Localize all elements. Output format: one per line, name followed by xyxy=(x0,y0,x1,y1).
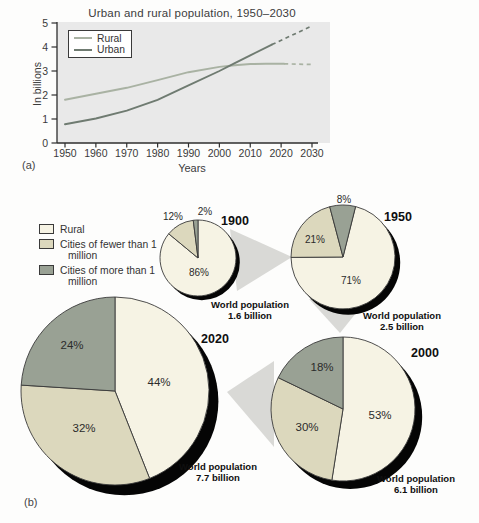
caption-line-2: 7.7 billion xyxy=(179,473,257,484)
caption-line-2: 2.5 billion xyxy=(363,322,441,333)
pie-slice-label-rural-2020: 44% xyxy=(147,376,170,388)
legend-item-cities-more: Cities of more than 1 million xyxy=(39,265,179,288)
pie-slice-label-fewer-1900: 12% xyxy=(163,211,183,222)
pie-slice-label-fewer-2000: 30% xyxy=(295,421,318,433)
legend-label-cities-fewer: Cities of fewer than 1 million xyxy=(60,239,179,262)
world-population-caption-2000: World population 6.1 billion xyxy=(377,474,455,495)
legend-swatch-cities-fewer xyxy=(39,239,54,249)
caption-line-1: World population xyxy=(363,311,441,322)
pie-slice-label-more-1900: 2% xyxy=(198,206,212,217)
caption-line-1: World population xyxy=(179,462,257,473)
pie-legend: Rural Cities of fewer than 1 million Cit… xyxy=(39,224,179,291)
legend-item-rural: Rural xyxy=(39,224,179,236)
pie-slice-label-rural-1950: 71% xyxy=(341,275,361,286)
pie-year-1950: 1950 xyxy=(384,210,412,224)
pie-year-2000: 2000 xyxy=(411,346,439,360)
pie-slice-label-rural-1900: 86% xyxy=(189,267,209,278)
figure: Urban and rural population, 1950–2030 01… xyxy=(0,0,479,523)
legend-swatch-cities-more xyxy=(39,265,54,275)
caption-line-1: World population xyxy=(211,300,289,311)
world-population-caption-1900: World population 1.6 billion xyxy=(211,300,289,321)
world-population-caption-2020: World population 7.7 billion xyxy=(179,462,257,483)
pie-slice-label-fewer-1950: 21% xyxy=(305,234,325,245)
legend-swatch-rural xyxy=(39,224,54,234)
caption-line-1: World population xyxy=(377,474,455,485)
legend-label-cities-more: Cities of more than 1 million xyxy=(60,265,179,288)
caption-line-2: 6.1 billion xyxy=(377,485,455,496)
pie-slice-label-fewer-2020: 32% xyxy=(72,422,95,434)
caption-line-2: 1.6 billion xyxy=(211,311,289,322)
panel-b-label: (b) xyxy=(24,496,37,508)
zoom-beam-2000-2020 xyxy=(227,361,274,447)
pie-year-1900: 1900 xyxy=(221,214,249,228)
world-population-caption-1950: World population 2.5 billion xyxy=(363,311,441,332)
pie-year-2020: 2020 xyxy=(201,332,229,346)
pie-slice-label-more-2000: 18% xyxy=(310,361,333,373)
pie-slice-label-more-2020: 24% xyxy=(60,339,83,351)
pie-slice-label-more-1950: 8% xyxy=(337,194,351,205)
legend-label-rural: Rural xyxy=(60,224,179,236)
legend-item-cities-fewer: Cities of fewer than 1 million xyxy=(39,239,179,262)
pie-slice-label-rural-2000: 53% xyxy=(368,409,391,421)
